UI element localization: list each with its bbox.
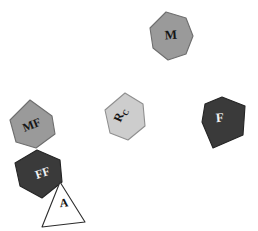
piece-f-label: F xyxy=(215,110,224,126)
piece-m[interactable]: M xyxy=(150,12,193,60)
piece-rc[interactable]: RC xyxy=(105,93,145,140)
piece-mf[interactable]: MF xyxy=(10,100,55,148)
piece-f[interactable]: F xyxy=(202,97,245,148)
piece-a-label: A xyxy=(59,195,69,210)
polygon-scatter-plot: MMFFFARCF xyxy=(0,0,258,231)
diagram-canvas: MMFFFARCF xyxy=(0,0,258,231)
piece-ff[interactable]: FF xyxy=(15,150,62,198)
piece-m-label: M xyxy=(164,27,177,43)
